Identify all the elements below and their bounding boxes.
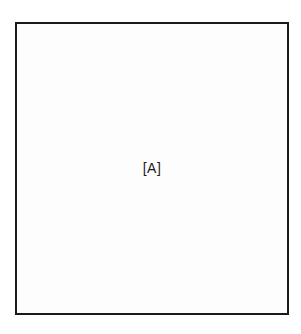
panel-label: [A] [17, 160, 287, 176]
figure-frame: [A] [15, 22, 289, 315]
